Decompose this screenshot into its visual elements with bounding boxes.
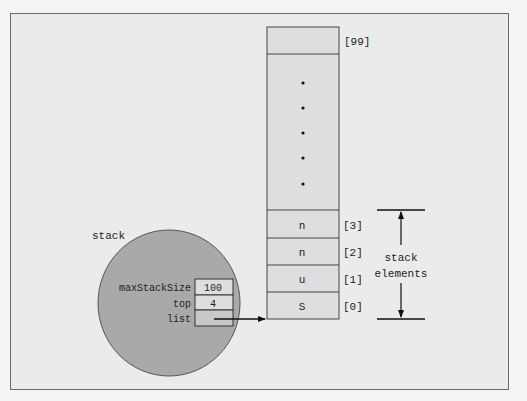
index-label-0: [0]	[343, 301, 363, 313]
cell-value-3: n	[299, 220, 306, 232]
field-value-maxStackSize: 100	[204, 283, 222, 294]
array-column: [99] n n u S [3] [2] [1] [0]	[267, 27, 370, 319]
stack-object-label: stack	[92, 230, 125, 242]
cell-value-2: n	[299, 247, 306, 259]
index-label-2: [2]	[343, 247, 363, 259]
stack-diagram: [99] n n u S [3] [2] [1] [0] stack eleme…	[0, 0, 527, 401]
index-label-1: [1]	[343, 274, 363, 286]
field-value-top: 4	[210, 299, 216, 310]
annotation-line1: stack	[384, 252, 417, 264]
cell-value-1: u	[299, 274, 306, 286]
stack-elements-annotation: stack elements	[375, 210, 428, 319]
cell-value-0: S	[299, 301, 306, 313]
field-name-maxStackSize: maxStackSize	[119, 283, 191, 294]
field-box-list	[195, 310, 233, 326]
annotation-line2: elements	[375, 268, 428, 280]
stack-object: stack maxStackSize top list 100 4	[92, 230, 240, 376]
field-name-top: top	[173, 299, 191, 310]
index-label-3: [3]	[343, 220, 363, 232]
index-label-99: [99]	[344, 36, 370, 48]
field-name-list: list	[167, 314, 191, 325]
